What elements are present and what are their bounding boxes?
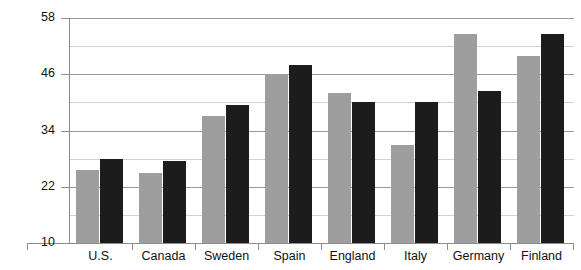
bar-group-italy [384,18,447,243]
bar-canada-series-a[interactable] [139,173,162,243]
y-tick-mark-46 [61,74,69,75]
bar-group-sweden [195,18,258,243]
bar-spain-series-b[interactable] [289,65,312,243]
bars-layer [69,18,574,243]
x-axis-line [27,243,574,244]
bar-group-us [69,18,132,243]
y-tick-label-58: 58 [0,11,55,24]
bar-group-spain [258,18,321,243]
bar-finland-series-b[interactable] [541,34,564,243]
bar-us-series-b[interactable] [100,159,123,243]
y-tick-label-34: 34 [0,124,55,137]
x-tick-label-finland: Finland [510,250,573,264]
bar-group-germany [447,18,510,243]
y-tick-mark-34 [61,131,69,132]
bar-england-series-b[interactable] [352,102,375,243]
bar-germany-series-b[interactable] [478,91,501,243]
y-axis-line [69,18,70,244]
x-tick-label-sweden: Sweden [195,250,258,264]
bar-sweden-series-b[interactable] [226,105,249,243]
x-tick-start [27,244,28,250]
bar-england-series-a[interactable] [328,93,351,243]
x-tick-label-us: U.S. [69,250,132,264]
x-tick-label-canada: Canada [132,250,195,264]
bar-group-canada [132,18,195,243]
bar-sweden-series-a[interactable] [202,116,225,243]
y-tick-mark-22 [61,187,69,188]
y-tick-label-22: 22 [0,180,55,193]
bar-group-finland [510,18,573,243]
bar-italy-series-a[interactable] [391,145,414,243]
bar-us-series-a[interactable] [76,170,99,243]
y-tick-mark-10 [61,243,69,244]
bar-italy-series-b[interactable] [415,102,438,243]
bar-germany-series-a[interactable] [454,34,477,243]
bar-finland-series-a[interactable] [517,56,540,244]
bar-spain-series-a[interactable] [265,74,288,243]
y-tick-label-46: 46 [0,67,55,80]
x-tick-label-england: England [321,250,384,264]
x-tick-end [573,244,574,250]
x-tick-label-germany: Germany [447,250,510,264]
x-tick-label-spain: Spain [258,250,321,264]
y-tick-mark-58 [61,18,69,19]
bar-chart: 58 46 34 22 10 U.S. Canada Sweden Spain … [0,0,581,270]
bar-group-england [321,18,384,243]
bar-canada-series-b[interactable] [163,161,186,243]
x-tick-label-italy: Italy [384,250,447,264]
